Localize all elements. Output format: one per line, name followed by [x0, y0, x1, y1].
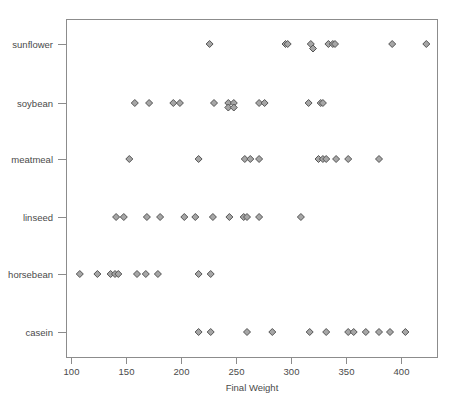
y-tick-label-linseed: linseed	[23, 212, 53, 223]
x-tick-label-350: 350	[339, 366, 355, 377]
x-tick-label-250: 250	[229, 366, 245, 377]
x-tick-label-400: 400	[394, 366, 410, 377]
x-tick-label-150: 150	[119, 366, 135, 377]
strip-chart-plot: 100150200250300350400 caseinhorsebeanlin…	[0, 0, 455, 407]
x-axis-title: Final Weight	[226, 382, 279, 393]
y-tick-label-casein: casein	[26, 327, 53, 338]
chart-figure: 100150200250300350400 caseinhorsebeanlin…	[0, 0, 455, 407]
y-tick-label-sunflower: sunflower	[12, 39, 53, 50]
x-tick-label-300: 300	[284, 366, 300, 377]
y-tick-label-meatmeal: meatmeal	[11, 154, 53, 165]
x-tick-label-200: 200	[174, 366, 190, 377]
chart-background	[0, 0, 455, 407]
y-tick-label-soybean: soybean	[17, 98, 53, 109]
x-tick-label-100: 100	[64, 366, 80, 377]
y-tick-label-horsebean: horsebean	[8, 269, 53, 280]
